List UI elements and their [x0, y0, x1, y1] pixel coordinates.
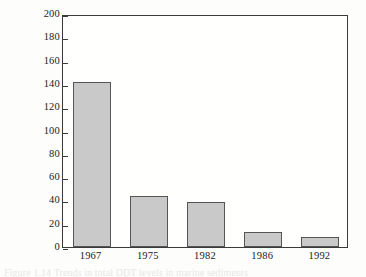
y-axis-tick-label: 120: [44, 101, 60, 112]
y-axis-tick-label: 40: [49, 194, 60, 205]
y-axis-tick-label: 60: [49, 171, 60, 182]
y-axis-tick-mark: [63, 179, 68, 180]
bar-1982: [187, 202, 225, 247]
y-axis-tick-label: 80: [49, 148, 60, 159]
x-axis-tick-label: 1967: [62, 250, 119, 261]
y-axis-tick-label: 20: [49, 218, 60, 229]
bar-1975: [130, 196, 168, 247]
y-axis-tick-mark: [63, 63, 68, 64]
bar-1992: [301, 237, 339, 247]
y-axis-tick-mark: [63, 133, 68, 134]
plot-area: 020406080100120140160180200: [62, 15, 348, 248]
y-axis-tick-label: 140: [44, 78, 60, 89]
y-axis-tick-mark: [63, 16, 68, 17]
bar-1967: [73, 82, 111, 247]
y-axis-tick-mark: [63, 156, 68, 157]
bar-1986: [244, 232, 282, 247]
x-axis-tick-label: 1992: [291, 250, 348, 261]
y-axis-tick-mark: [63, 226, 68, 227]
y-axis-tick-mark: [63, 202, 68, 203]
y-axis-tick-label: 0: [55, 241, 60, 252]
y-axis-tick-label: 200: [44, 8, 60, 19]
ddt-bar-chart-figure: Mean total DDT level (ng/g) 020406080100…: [0, 0, 366, 277]
x-axis-tick-label: 1975: [119, 250, 176, 261]
clipped-figure-caption: Figure 1.14 Trends in total DDT levels i…: [4, 268, 362, 277]
x-axis-tick-label: 1986: [234, 250, 291, 261]
y-axis-tick-label: 100: [44, 125, 60, 136]
y-axis-tick-mark: [63, 109, 68, 110]
y-axis-tick-mark: [63, 86, 68, 87]
y-axis-tick-label: 180: [44, 31, 60, 42]
y-axis-tick-label: 160: [44, 55, 60, 66]
y-axis-tick-mark: [63, 39, 68, 40]
x-axis-tick-label: 1982: [176, 250, 233, 261]
